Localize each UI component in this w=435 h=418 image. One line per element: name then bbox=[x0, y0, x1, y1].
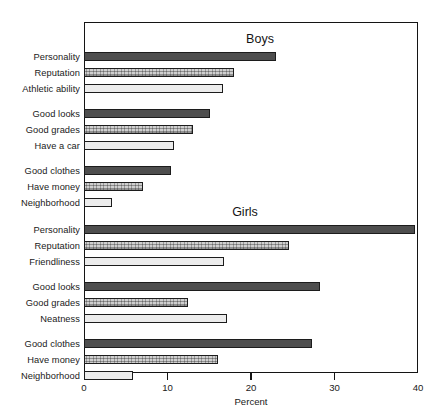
bar bbox=[84, 52, 276, 61]
category-label: Good clothes bbox=[2, 166, 80, 176]
x-axis-tick-label: 20 bbox=[246, 382, 257, 393]
x-axis-tick-label: 40 bbox=[413, 382, 424, 393]
bar-chart: PersonalityReputationAthletic abilityGoo… bbox=[0, 0, 435, 418]
x-axis-tick bbox=[334, 373, 335, 380]
category-label: Good clothes bbox=[2, 339, 80, 349]
category-label: Have a car bbox=[2, 141, 80, 151]
x-axis-tick-label: 10 bbox=[162, 382, 173, 393]
category-label: Neighborhood bbox=[2, 371, 80, 381]
category-label: Personality bbox=[2, 225, 80, 235]
category-label: Good grades bbox=[2, 298, 80, 308]
bar bbox=[84, 225, 415, 234]
panel-title-girls: Girls bbox=[232, 206, 258, 219]
category-label: Reputation bbox=[2, 241, 80, 251]
bar bbox=[84, 109, 210, 118]
x-axis-title: Percent bbox=[234, 396, 267, 407]
category-label: Good looks bbox=[2, 282, 80, 292]
category-label: Have money bbox=[2, 182, 80, 192]
category-label-column: PersonalityReputationAthletic abilityGoo… bbox=[0, 0, 80, 418]
bar bbox=[84, 257, 224, 266]
bar bbox=[84, 282, 320, 291]
x-axis-tick-label: 30 bbox=[329, 382, 340, 393]
bar bbox=[84, 166, 171, 175]
bar bbox=[84, 355, 218, 364]
category-label: Have money bbox=[2, 355, 80, 365]
bar bbox=[84, 339, 312, 348]
bar bbox=[84, 371, 133, 380]
x-axis-tick bbox=[167, 373, 168, 380]
category-label: Neatness bbox=[2, 314, 80, 324]
bar bbox=[84, 141, 174, 150]
x-axis-tick-label: 0 bbox=[81, 382, 86, 393]
bar bbox=[84, 84, 223, 93]
category-label: Good looks bbox=[2, 109, 80, 119]
category-label: Reputation bbox=[2, 68, 80, 78]
bar bbox=[84, 198, 112, 207]
category-label: Neighborhood bbox=[2, 198, 80, 208]
bar bbox=[84, 298, 188, 307]
bar bbox=[84, 68, 234, 77]
bar bbox=[84, 125, 193, 134]
category-label: Good grades bbox=[2, 125, 80, 135]
category-label: Athletic ability bbox=[2, 84, 80, 94]
category-label: Friendliness bbox=[2, 257, 80, 267]
x-axis-tick bbox=[250, 373, 251, 380]
panel-title-boys: Boys bbox=[246, 33, 274, 46]
bar bbox=[84, 314, 227, 323]
bar bbox=[84, 182, 143, 191]
bar bbox=[84, 241, 289, 250]
category-label: Personality bbox=[2, 52, 80, 62]
